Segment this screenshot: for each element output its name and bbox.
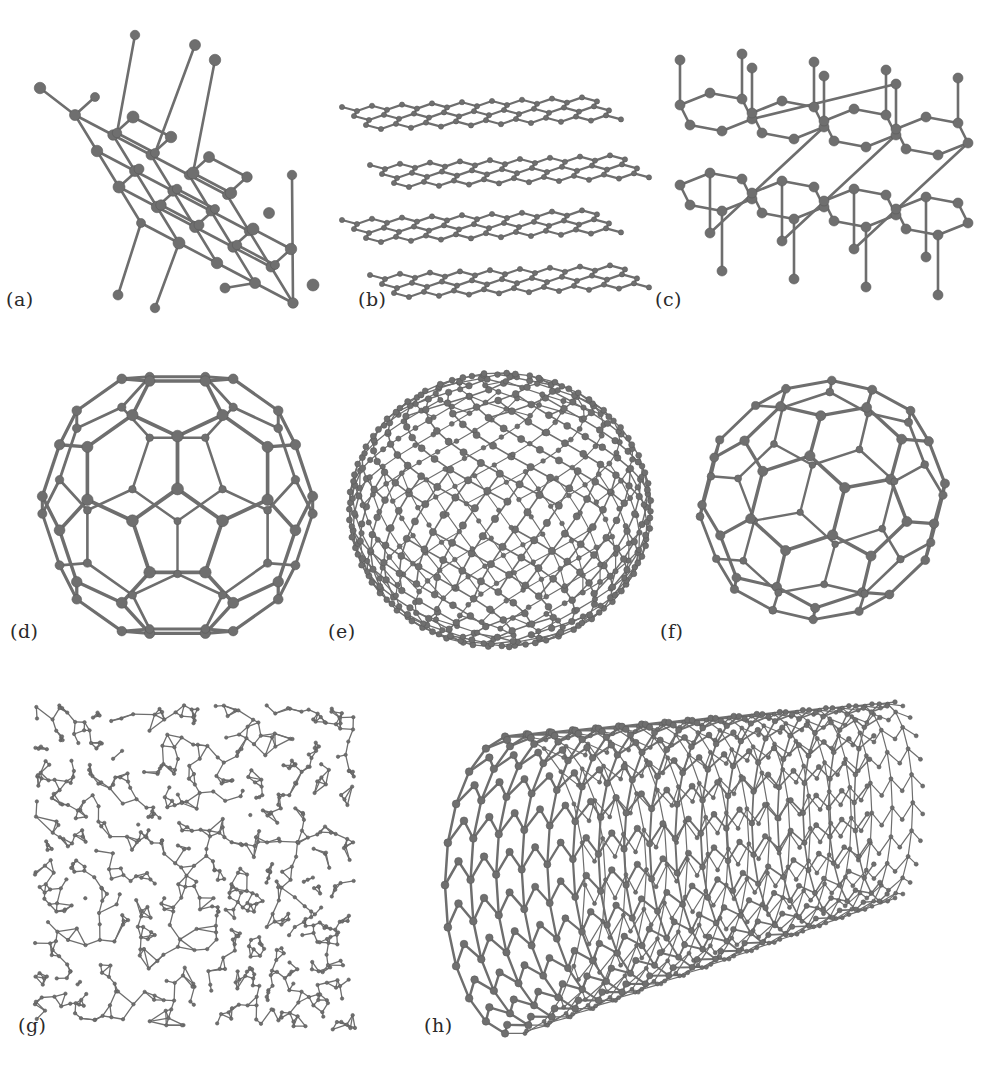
panel-label-g: (g): [18, 1014, 47, 1036]
structure-amorphous-carbon: [25, 695, 365, 1040]
structure-C70-fullerene: [680, 350, 965, 650]
panel-label-a: (a): [6, 288, 34, 310]
structure-diamond: [20, 20, 320, 330]
panel-label-c: (c): [655, 288, 682, 310]
panel-label-e: (e): [328, 620, 356, 642]
panel-label-f: (f): [660, 620, 683, 642]
structure-C60-fullerene: [30, 360, 325, 650]
structure-C540-fullerene: [345, 370, 655, 650]
panel-label-d: (d): [10, 620, 39, 642]
panel-label-h: (h): [424, 1014, 453, 1036]
structure-carbon-nanotube: [420, 710, 965, 1040]
panel-label-b: (b): [358, 288, 387, 310]
structure-lonsdaleite: [650, 35, 950, 325]
